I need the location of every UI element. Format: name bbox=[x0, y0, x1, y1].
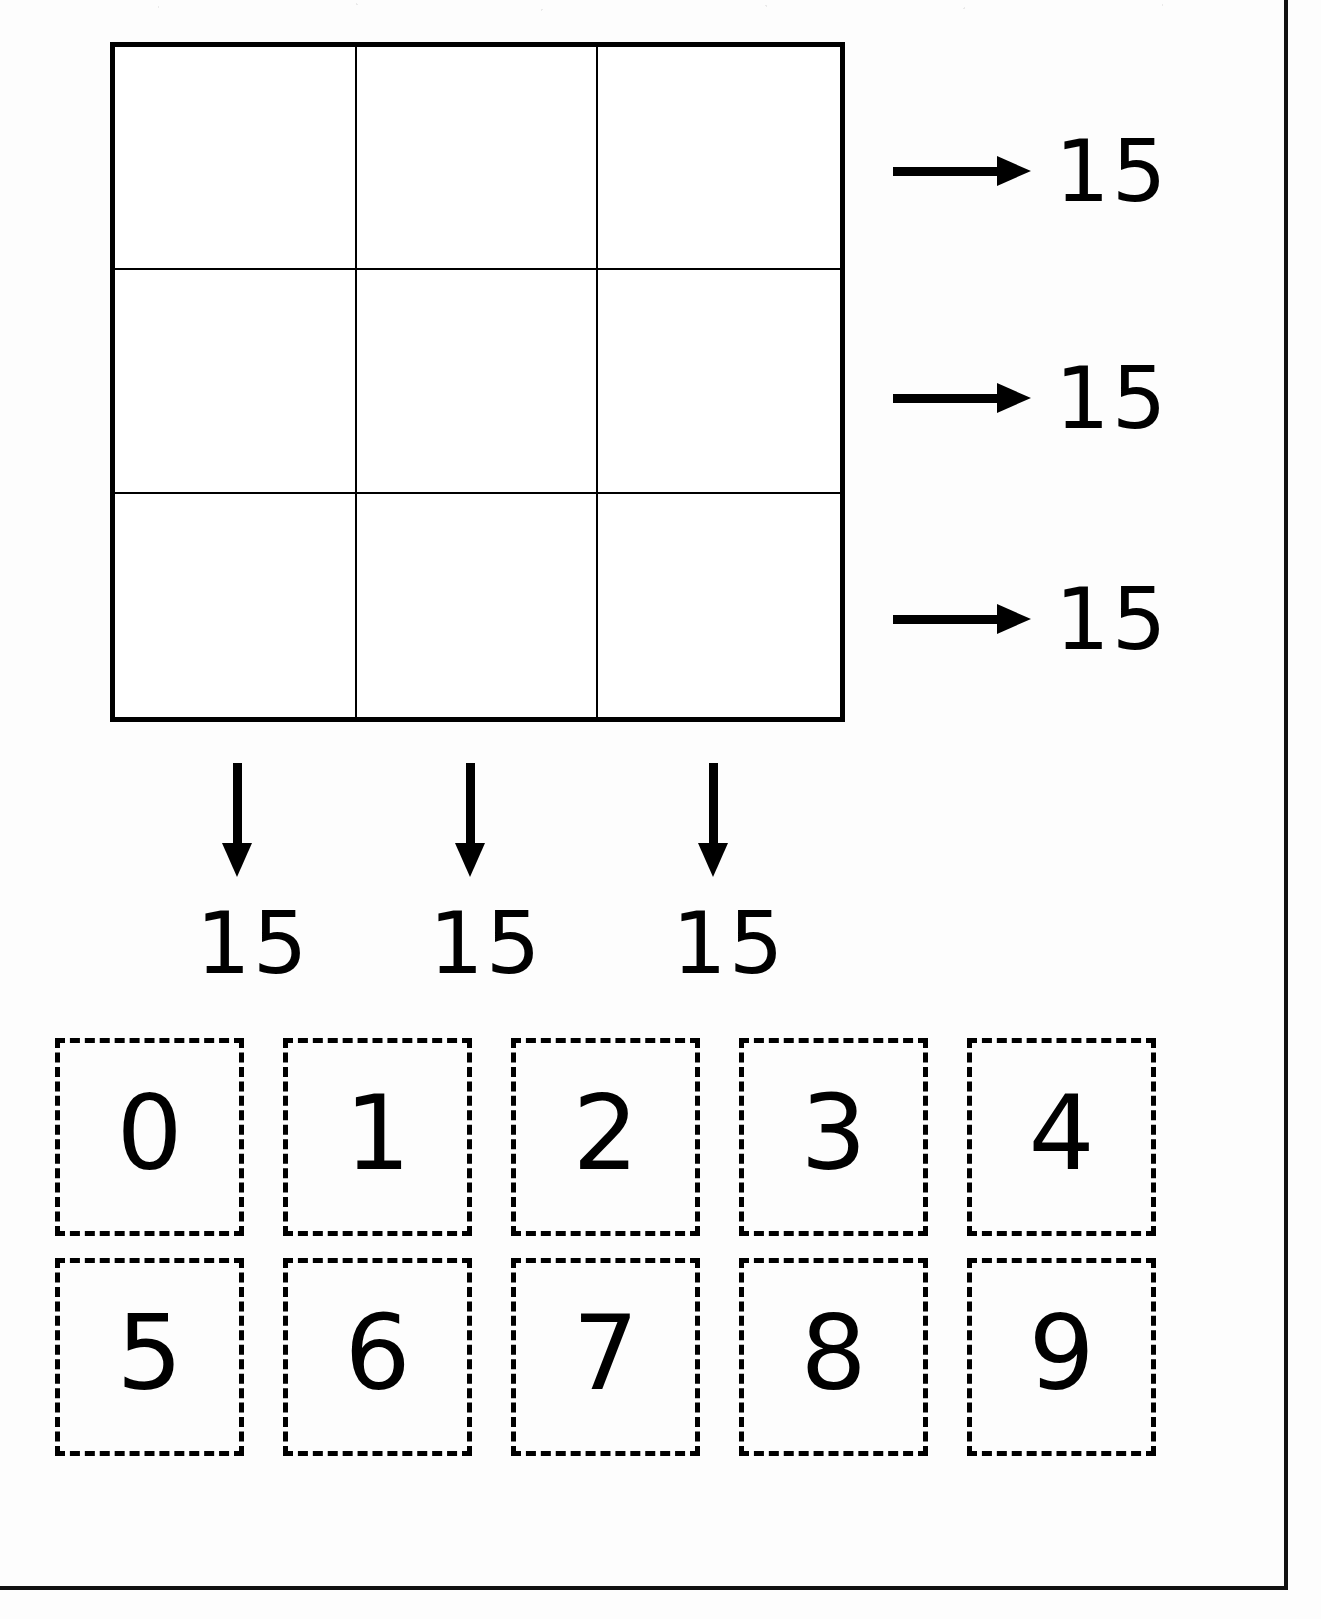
arrow-head bbox=[997, 604, 1031, 634]
arrow-head bbox=[997, 156, 1031, 186]
column-3-sum-label: 15 bbox=[672, 900, 802, 986]
number-tile-label: 0 bbox=[116, 1081, 182, 1185]
arrow-shaft bbox=[709, 763, 718, 851]
number-tile-label: 1 bbox=[344, 1081, 410, 1185]
number-tile-label: 2 bbox=[572, 1081, 638, 1185]
arrow-shaft bbox=[466, 763, 475, 851]
number-tile-0[interactable]: 0 bbox=[55, 1038, 244, 1236]
number-tile-4[interactable]: 4 bbox=[967, 1038, 1156, 1236]
number-tile-1[interactable]: 1 bbox=[283, 1038, 472, 1236]
arrow-shaft bbox=[893, 394, 1005, 403]
number-tile-label: 4 bbox=[1028, 1081, 1094, 1185]
column-2-arrow-down-icon bbox=[455, 763, 485, 875]
number-tile-3[interactable]: 3 bbox=[739, 1038, 928, 1236]
number-tile-label: 6 bbox=[344, 1301, 410, 1405]
arrow-head bbox=[698, 843, 728, 877]
row-3-arrow-right-icon bbox=[893, 604, 1031, 634]
number-tile-row-1: 0 1 2 3 4 bbox=[55, 1038, 1205, 1236]
row-3-sum-label: 15 bbox=[1055, 576, 1185, 662]
number-tile-5[interactable]: 5 bbox=[55, 1258, 244, 1456]
number-tile-label: 7 bbox=[572, 1301, 638, 1405]
number-tile-2[interactable]: 2 bbox=[511, 1038, 700, 1236]
number-tile-9[interactable]: 9 bbox=[967, 1258, 1156, 1456]
grid-cell-r1c1[interactable] bbox=[115, 47, 357, 270]
column-1-arrow-down-icon bbox=[222, 763, 252, 875]
grid-cell-r2c3[interactable] bbox=[598, 270, 840, 493]
number-tile-7[interactable]: 7 bbox=[511, 1258, 700, 1456]
grid-cell-r2c2[interactable] bbox=[357, 270, 599, 493]
column-2-sum-label: 15 bbox=[429, 900, 559, 986]
number-tile-tray: 0 1 2 3 4 5 6 7 bbox=[55, 1038, 1205, 1478]
grid-cell-r1c3[interactable] bbox=[598, 47, 840, 270]
grid-cell-r1c2[interactable] bbox=[357, 47, 599, 270]
arrow-head bbox=[222, 843, 252, 877]
arrow-shaft bbox=[893, 167, 1005, 176]
grid-cell-r2c1[interactable] bbox=[115, 270, 357, 493]
grid-cell-r3c1[interactable] bbox=[115, 494, 357, 717]
scan-noise-band bbox=[0, 0, 1321, 14]
row-1-arrow-right-icon bbox=[893, 156, 1031, 186]
arrow-head bbox=[997, 383, 1031, 413]
arrow-head bbox=[455, 843, 485, 877]
column-3-arrow-down-icon bbox=[698, 763, 728, 875]
grid-cell-r3c3[interactable] bbox=[598, 494, 840, 717]
column-1-sum-label: 15 bbox=[196, 900, 326, 986]
number-tile-label: 3 bbox=[800, 1081, 866, 1185]
row-2-arrow-right-icon bbox=[893, 383, 1031, 413]
number-tile-row-2: 5 6 7 8 9 bbox=[55, 1258, 1205, 1456]
number-tile-label: 8 bbox=[800, 1301, 866, 1405]
number-tile-label: 5 bbox=[116, 1301, 182, 1405]
row-2-sum-label: 15 bbox=[1055, 355, 1185, 441]
grid-cell-r3c2[interactable] bbox=[357, 494, 599, 717]
arrow-shaft bbox=[233, 763, 242, 851]
magic-square-grid bbox=[110, 42, 845, 722]
row-1-sum-label: 15 bbox=[1055, 128, 1185, 214]
number-tile-6[interactable]: 6 bbox=[283, 1258, 472, 1456]
worksheet-page: 15 15 15 15 15 15 0 1 2 bbox=[0, 0, 1321, 1619]
arrow-shaft bbox=[893, 615, 1005, 624]
number-tile-label: 9 bbox=[1028, 1301, 1094, 1405]
number-tile-8[interactable]: 8 bbox=[739, 1258, 928, 1456]
